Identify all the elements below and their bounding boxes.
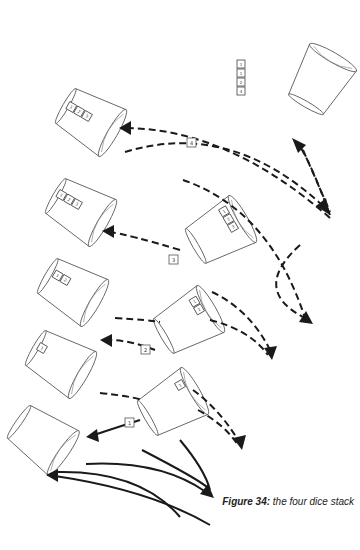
- four-dice-stack: 1 1 2 4: [237, 60, 245, 95]
- stack-die-4: 4: [240, 89, 243, 94]
- stack-die-1: 1: [240, 62, 243, 67]
- figure-caption-text: the four dice stack: [273, 496, 354, 507]
- svg-text:2: 2: [144, 347, 147, 353]
- step-label-4: 4: [187, 138, 196, 147]
- step-label-1: 1: [125, 418, 134, 427]
- stack-die-2: 1: [240, 71, 243, 76]
- cup-top-right: [281, 40, 359, 121]
- svg-text:3: 3: [172, 257, 175, 263]
- cup-row2-right: [180, 193, 261, 271]
- cup-row3-left: [32, 251, 113, 329]
- dice-stack-diagram: 1 1 2 4 1 2 3 1 2 3 1 2 3: [0, 0, 360, 550]
- arrows-final: [46, 440, 214, 525]
- step-label-3: 3: [169, 255, 178, 264]
- cup-row4-right: [132, 365, 213, 443]
- cup-bottom-left: [1, 398, 83, 478]
- cup-row4-left: [20, 323, 101, 401]
- cup-row2-left: [40, 171, 121, 249]
- cup-row1-left: [50, 81, 131, 159]
- figure-caption: Figure 34: the four dice stack: [222, 496, 354, 507]
- step-label-2: 2: [141, 345, 150, 354]
- stack-die-3: 2: [240, 80, 243, 85]
- svg-text:1: 1: [128, 420, 131, 426]
- figure-caption-label: Figure 34:: [222, 496, 270, 507]
- svg-text:4: 4: [190, 140, 193, 146]
